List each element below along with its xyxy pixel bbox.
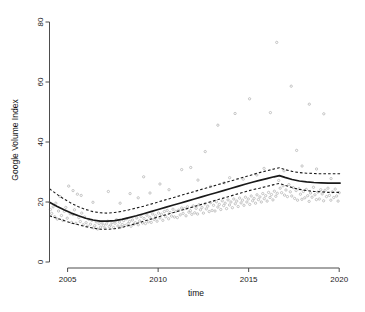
data-point <box>136 217 138 219</box>
data-point <box>156 220 158 222</box>
data-point <box>143 217 145 219</box>
y-axis: 020406080 <box>36 17 50 264</box>
y-tick-label: 20 <box>36 197 45 206</box>
data-point <box>270 193 272 195</box>
data-point <box>173 216 175 218</box>
data-point <box>66 217 68 219</box>
y-tick-label: 60 <box>36 77 45 86</box>
data-point <box>330 199 332 201</box>
data-point <box>294 197 296 199</box>
data-point <box>80 194 82 196</box>
data-point <box>309 192 311 194</box>
data-point <box>301 198 303 200</box>
data-point <box>308 200 310 202</box>
data-point <box>266 200 268 202</box>
data-point <box>211 209 213 211</box>
data-point <box>327 187 329 189</box>
data-point <box>149 192 151 194</box>
data-point <box>256 174 258 176</box>
data-point <box>60 214 62 216</box>
data-point <box>114 222 116 224</box>
data-point <box>321 193 323 195</box>
data-point <box>204 150 206 152</box>
data-point <box>168 189 170 191</box>
data-point <box>243 204 245 206</box>
data-point <box>56 218 58 220</box>
data-point <box>217 206 219 208</box>
data-point <box>253 197 255 199</box>
data-point <box>85 222 87 224</box>
data-point <box>301 165 303 167</box>
data-point <box>325 195 327 197</box>
data-point <box>51 212 53 214</box>
data-point <box>246 201 248 203</box>
data-point <box>233 198 235 200</box>
data-point <box>330 177 332 179</box>
data-point <box>110 224 112 226</box>
data-point <box>289 191 291 193</box>
data-point <box>315 198 317 200</box>
data-point <box>163 210 165 212</box>
data-point <box>224 202 226 204</box>
data-point <box>299 193 301 195</box>
data-point <box>279 187 281 189</box>
data-point <box>322 200 324 202</box>
data-point <box>107 190 109 192</box>
data-point <box>295 189 297 191</box>
data-point <box>176 216 178 218</box>
data-point <box>57 210 59 212</box>
data-point <box>269 196 271 198</box>
data-point <box>134 222 136 224</box>
data-point <box>98 222 100 224</box>
data-point <box>101 222 103 224</box>
y-axis-title: Google Volume Index <box>10 99 20 181</box>
data-point <box>230 201 232 203</box>
data-point <box>263 198 265 200</box>
x-tick-label: 2020 <box>330 275 348 284</box>
data-point <box>295 149 297 151</box>
x-axis-title: time <box>188 288 204 298</box>
data-point <box>227 199 229 201</box>
data-point <box>72 189 74 191</box>
data-point <box>137 224 139 226</box>
data-point <box>221 200 223 202</box>
data-point <box>324 189 326 191</box>
data-point <box>175 210 177 212</box>
data-point <box>333 196 335 198</box>
data-point <box>89 223 91 225</box>
data-point <box>285 189 287 191</box>
data-point <box>231 207 233 209</box>
data-point <box>189 210 191 212</box>
data-point <box>159 183 161 185</box>
y-tick-label: 80 <box>36 17 45 26</box>
data-point <box>276 41 278 43</box>
x-tick-label: 2005 <box>59 275 77 284</box>
data-point <box>194 212 196 214</box>
data-point <box>76 193 78 195</box>
y-tick-label: 40 <box>36 137 45 146</box>
data-point <box>250 195 252 197</box>
data-point <box>137 197 139 199</box>
data-point <box>146 214 148 216</box>
data-point <box>199 209 201 211</box>
data-point <box>131 219 133 221</box>
data-point <box>267 191 269 193</box>
data-point <box>257 198 259 200</box>
data-point <box>238 197 240 199</box>
data-point <box>154 215 156 217</box>
data-point <box>153 218 155 220</box>
data-point <box>186 206 188 208</box>
data-point <box>236 200 238 202</box>
data-point <box>201 206 203 208</box>
data-point <box>212 204 214 206</box>
data-point <box>240 202 242 204</box>
data-point <box>256 194 258 196</box>
data-point <box>190 166 192 168</box>
data-point <box>52 206 54 208</box>
data-point <box>260 201 262 203</box>
data-point <box>283 170 285 172</box>
scatter-plot-canvas: 020406080 2005201020152020 Google Volume… <box>0 0 365 312</box>
data-point <box>105 223 107 225</box>
x-tick-label: 2010 <box>149 275 167 284</box>
data-point <box>102 224 104 226</box>
